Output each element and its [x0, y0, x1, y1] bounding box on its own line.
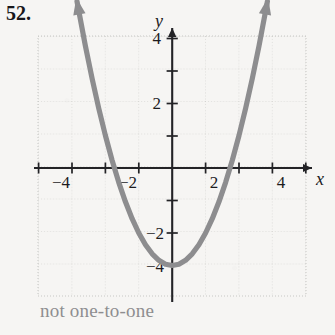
- figure-page: 52.: [0, 0, 335, 335]
- y-axis-label: y: [153, 11, 163, 31]
- y-tick-label--2: −2: [146, 224, 164, 243]
- y-tick-label-4: 4: [153, 29, 162, 48]
- x-tick-label-4: 4: [277, 173, 286, 192]
- x-tick-label--4: −4: [52, 173, 71, 192]
- figure-caption: not one-to-one: [40, 300, 154, 322]
- y-tick-label-2: 2: [153, 94, 162, 113]
- x-axis-label: x: [315, 169, 324, 189]
- graph-canvas: −4 −2 2 4 4 2 −2 −4 y x: [0, 0, 335, 335]
- x-tick-label-2: 2: [210, 173, 219, 192]
